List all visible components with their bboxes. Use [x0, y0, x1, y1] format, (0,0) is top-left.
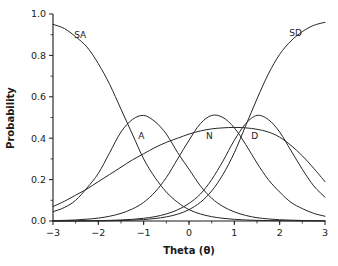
y-axis-title: Probability — [5, 87, 16, 149]
curve-label-a: A — [138, 131, 145, 141]
chart-figure: −3−2−10123 0.00.20.40.60.81.0 SAANDSD Th… — [0, 0, 338, 266]
y-tick-label: 0.8 — [31, 50, 46, 61]
curve-label-d: D — [251, 131, 258, 141]
x-tick-label: 1 — [231, 227, 237, 238]
y-tick-label: 0.2 — [31, 174, 46, 185]
category-response-curves-chart: −3−2−10123 0.00.20.40.60.81.0 SAANDSD Th… — [0, 0, 338, 266]
x-tick-label: 0 — [186, 227, 192, 238]
curve-label-sa: SA — [74, 30, 87, 40]
y-tick-label: 0.4 — [31, 133, 46, 144]
x-tick-label: −3 — [46, 227, 60, 238]
y-tick-label: 1.0 — [31, 8, 46, 19]
x-tick-label: −1 — [137, 227, 151, 238]
x-tick-label: −2 — [91, 227, 105, 238]
y-tick-label: 0.0 — [31, 215, 46, 226]
curve-label-n: N — [206, 131, 213, 141]
x-tick-label: 2 — [277, 227, 283, 238]
curve-label-sd: SD — [289, 28, 302, 38]
x-tick-label: 3 — [322, 227, 328, 238]
x-axis-title: Theta (θ) — [163, 245, 215, 256]
y-tick-label: 0.6 — [31, 91, 46, 102]
